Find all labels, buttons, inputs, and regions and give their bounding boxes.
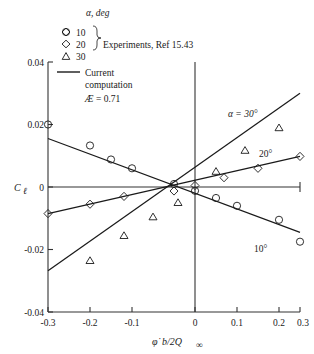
diamond-marker-icon-2 bbox=[62, 40, 70, 48]
curve-label-alpha-10: 10° bbox=[254, 244, 268, 254]
data-point bbox=[170, 187, 178, 195]
data-point bbox=[120, 232, 128, 239]
x-label-neg03: -0.3 bbox=[40, 318, 55, 328]
circle-marker-icon bbox=[62, 28, 69, 35]
legend-header: α, deg bbox=[86, 8, 110, 18]
data-point bbox=[275, 216, 282, 223]
x-axis-title-subscript: ∞ bbox=[196, 340, 203, 350]
aspect-ratio-symbol: Æ bbox=[84, 94, 94, 104]
curve-label-alpha-30: α = 30° bbox=[228, 109, 258, 119]
series-alpha-10-markers bbox=[44, 121, 303, 245]
data-point bbox=[174, 199, 182, 206]
triangle-marker-icon bbox=[62, 53, 70, 60]
data-point bbox=[241, 147, 249, 154]
y-label-neg002: -0.02 bbox=[24, 245, 44, 255]
data-point bbox=[296, 238, 303, 245]
legend-group-label: Experiments, Ref 15.43 bbox=[103, 40, 193, 50]
legend: α, deg 10 20 30 Experiments, Ref 15.43 bbox=[57, 8, 193, 104]
y-axis-title-subscript: ℓ bbox=[23, 186, 27, 196]
y-label-004: 0.04 bbox=[27, 58, 44, 68]
x-axis-title-main: b/2Q bbox=[162, 336, 183, 347]
x-tick-labels: -0.3 -0.2 -0.1 0 0.1 0.2 0.3 bbox=[40, 318, 309, 328]
legend-line-label-2: computation bbox=[85, 80, 133, 90]
x-label-neg02: -0.2 bbox=[82, 318, 97, 328]
y-axis-title: C bbox=[14, 182, 21, 193]
legend-entry-10-label: 10 bbox=[76, 28, 86, 38]
legend-brace-icon bbox=[93, 26, 101, 50]
legend-entry-30-label: 30 bbox=[76, 52, 86, 62]
data-point bbox=[149, 213, 157, 220]
x-label-03: 0.3 bbox=[297, 318, 309, 328]
legend-line-label-1: Current bbox=[85, 68, 114, 78]
y-label-neg004: -0.04 bbox=[24, 308, 44, 318]
x-label-02: 0.2 bbox=[273, 318, 285, 328]
legend-entry-20-sym bbox=[62, 40, 70, 48]
x-label-neg01: -0.1 bbox=[124, 318, 139, 328]
legend-entry-20-label: 20 bbox=[76, 40, 86, 50]
y-label-000: 0 bbox=[39, 183, 44, 193]
curve-labels: α = 30° 20° 10° bbox=[228, 109, 273, 254]
rolling-moment-chart: α, deg 10 20 30 Experiments, Ref 15.43 bbox=[0, 0, 314, 354]
aspect-ratio-value: = 0.71 bbox=[96, 94, 121, 104]
data-point bbox=[86, 257, 94, 264]
x-axis-title-phi: φ̇ bbox=[152, 336, 161, 347]
y-label-002: 0.02 bbox=[27, 120, 44, 130]
data-point bbox=[275, 124, 283, 131]
series-alpha-30-markers bbox=[86, 124, 283, 264]
data-point bbox=[212, 168, 220, 175]
y-tick-labels: 0.04 0.02 0 -0.02 -0.04 bbox=[24, 58, 44, 318]
x-label-0: 0 bbox=[193, 318, 198, 328]
x-label-01: 0.1 bbox=[231, 318, 243, 328]
legend-entry-30-sym bbox=[62, 53, 70, 60]
data-point bbox=[86, 142, 93, 149]
figure-container: α, deg 10 20 30 Experiments, Ref 15.43 bbox=[0, 0, 314, 354]
curve-label-alpha-20: 20° bbox=[259, 149, 273, 159]
